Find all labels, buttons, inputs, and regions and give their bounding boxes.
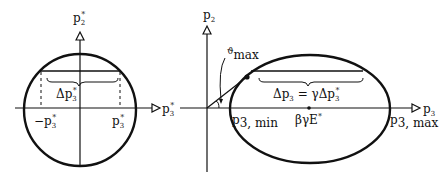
p3-min-label: p3, min (232, 113, 278, 130)
right-brace (259, 78, 363, 86)
neg-p3-star-label: −p3* (34, 113, 56, 130)
angle-pointer (220, 58, 225, 100)
ellipse-center-point (307, 106, 311, 110)
angle-arc (216, 101, 219, 108)
right-y-arrow-icon (203, 26, 211, 34)
right-x-arrow-icon (412, 104, 420, 112)
pos-p3-star-label: p3* (112, 113, 124, 130)
diagram-canvas: p2* p3* −p3* p3* Δp3* p2 p3 ϑmax p3, min… (0, 0, 445, 183)
tangent-line (207, 76, 248, 108)
right-diagram: p2 p3 ϑmax p3, min βγE* p3, max Δp3 = γΔ… (180, 8, 438, 172)
left-x-axis-label: p3* (162, 101, 174, 118)
theta-max-label: ϑmax (227, 46, 259, 62)
beta-gamma-e-star-label: βγE* (295, 112, 322, 127)
p3-max-label: p3, max (390, 113, 438, 130)
right-y-axis-label: p2 (203, 8, 215, 24)
left-brace (47, 78, 118, 86)
left-y-arrow-icon (76, 32, 84, 40)
left-y-axis-label: p2* (73, 10, 85, 27)
left-x-arrow-icon (152, 104, 160, 112)
tangent-point (244, 74, 249, 79)
delta-p3-star-label: Δp3* (56, 86, 77, 103)
angle-pointer-arrow-icon (219, 99, 223, 104)
delta-p3-equation-label: Δp3 = γΔp3* (273, 86, 340, 103)
left-diagram: p2* p3* −p3* p3* Δp3* (15, 10, 174, 166)
